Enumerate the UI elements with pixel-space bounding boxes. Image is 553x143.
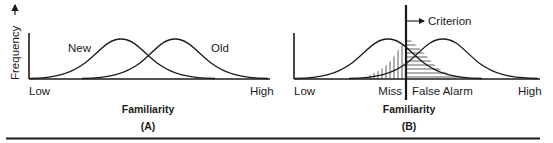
panel-caption-a: (A)	[141, 120, 156, 132]
panel-caption-b: (B)	[402, 120, 417, 132]
x-high-label: High	[250, 85, 274, 97]
panel-a: Frequency New Old Low High Familiarity (…	[9, 5, 274, 132]
x-low-label: Low	[29, 85, 51, 97]
signal-detection-figure: Frequency New Old Low High Familiarity (…	[0, 0, 553, 143]
x-high-label: High	[518, 85, 542, 97]
frequency-axis-label: Frequency	[9, 25, 21, 80]
familiarity-axis-label: Familiarity	[383, 103, 436, 115]
familiarity-axis-label: Familiarity	[122, 103, 175, 115]
x-low-label: Low	[294, 85, 316, 97]
panel-b: Criterion Low Miss False Alarm High Fami…	[294, 5, 542, 132]
miss-region-hatching	[370, 30, 402, 80]
old-curve-label: Old	[211, 42, 229, 54]
miss-label: Miss	[378, 85, 402, 97]
new-curve-label: New	[68, 42, 92, 54]
old-distribution-curve	[349, 39, 538, 79]
false-alarm-label: False Alarm	[412, 85, 473, 97]
criterion-label: Criterion	[428, 15, 471, 27]
